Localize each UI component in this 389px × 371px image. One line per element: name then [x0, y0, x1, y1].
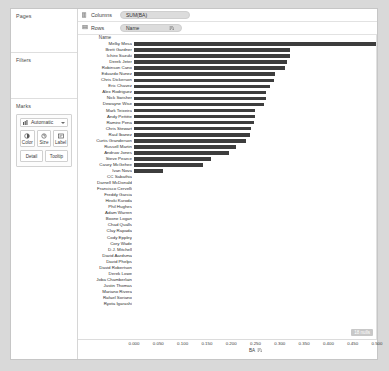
- rows-shelf[interactable]: Rows Name: [78, 22, 377, 35]
- x-axis-tick: 0.000: [129, 341, 140, 346]
- x-axis-title[interactable]: BA: [134, 348, 377, 353]
- bar-list: [134, 41, 376, 339]
- bar[interactable]: [134, 145, 236, 149]
- bar[interactable]: [134, 109, 255, 113]
- x-axis-tick: 0.150: [201, 341, 212, 346]
- rows-label: Rows: [91, 25, 117, 31]
- row-header-list: Melky MesaBrett GardnerIchiro SuzukiDere…: [96, 41, 132, 307]
- row-header-cell[interactable]: Joba Chamberlain: [96, 277, 132, 283]
- bar[interactable]: [134, 54, 290, 58]
- bar[interactable]: [134, 85, 270, 89]
- bar[interactable]: [134, 127, 251, 131]
- bar-chart-icon: [23, 120, 29, 126]
- bar[interactable]: [134, 91, 266, 95]
- bar[interactable]: [134, 72, 275, 76]
- row-header-cell[interactable]: David Robertson: [96, 265, 132, 271]
- color-icon: [24, 133, 30, 139]
- columns-icon: [82, 12, 88, 18]
- mark-type-label: Automatic: [31, 118, 59, 127]
- x-axis-tick: 0.100: [177, 341, 188, 346]
- bar[interactable]: [134, 133, 250, 137]
- bar[interactable]: [134, 139, 246, 143]
- marks-box: Automatic Color Size: [16, 114, 72, 167]
- bar[interactable]: [134, 79, 274, 83]
- tableau-worksheet: Pages Filters Marks Automatic: [10, 8, 378, 360]
- bar-row: [134, 301, 376, 307]
- x-axis-ticks: 0.0000.0500.1000.1500.2000.2500.3000.350…: [134, 340, 377, 348]
- bar[interactable]: [134, 157, 211, 161]
- rows-pill-name[interactable]: Name: [120, 24, 182, 32]
- bar[interactable]: [134, 151, 229, 155]
- sort-descending-icon[interactable]: [169, 26, 176, 31]
- columns-pill-sum-ba[interactable]: SUM(BA): [120, 11, 190, 19]
- bar[interactable]: [134, 163, 203, 167]
- bar[interactable]: [134, 48, 290, 52]
- label-button-label: Label: [55, 140, 66, 145]
- x-axis-tick: 0.300: [274, 341, 285, 346]
- color-button[interactable]: Color: [20, 130, 35, 147]
- sort-descending-icon[interactable]: [257, 348, 262, 353]
- mark-type-dropdown[interactable]: Automatic: [20, 118, 68, 127]
- tooltip-button-label: Tooltip: [50, 154, 63, 159]
- worksheet-main: Columns SUM(BA) Rows Name Name Melky Mes…: [78, 9, 377, 359]
- x-axis-tick: 0.400: [323, 341, 334, 346]
- rows-icon: [82, 25, 88, 31]
- size-button[interactable]: Size: [37, 130, 52, 147]
- bar[interactable]: [134, 121, 254, 125]
- x-axis-tick: 0.350: [299, 341, 310, 346]
- x-axis-tick: 0.250: [250, 341, 261, 346]
- pages-card: Pages: [11, 9, 77, 53]
- marks-button-row-1: Color Size Label: [20, 130, 68, 147]
- bar[interactable]: [134, 97, 266, 101]
- x-axis-tick: 0.450: [347, 341, 358, 346]
- filters-card[interactable]: Filters: [11, 53, 77, 99]
- rows-pill-text: Name: [126, 24, 139, 32]
- color-button-label: Color: [22, 140, 33, 145]
- row-headers: Name Melky MesaBrett GardnerIchiro Suzuk…: [78, 35, 134, 339]
- chevron-down-icon: [61, 122, 65, 124]
- bar[interactable]: [134, 169, 163, 173]
- marks-title: Marks: [16, 103, 72, 110]
- left-rail: Pages Filters Marks Automatic: [11, 9, 78, 359]
- row-header-cell[interactable]: Curtis Granderson: [96, 138, 132, 144]
- plot-area: Name Melky MesaBrett GardnerIchiro Suzuk…: [78, 35, 377, 339]
- bar[interactable]: [134, 66, 285, 70]
- x-axis-tick: 0.500: [372, 341, 383, 346]
- filters-title: Filters: [16, 57, 72, 64]
- size-button-label: Size: [40, 140, 49, 145]
- bar[interactable]: [134, 103, 264, 107]
- tooltip-button[interactable]: Tooltip: [45, 150, 68, 162]
- x-axis-tick: 0.200: [226, 341, 237, 346]
- detail-button[interactable]: Detail: [20, 150, 43, 162]
- x-axis-title-text: BA: [249, 348, 255, 353]
- marks-button-row-2: Detail Tooltip: [20, 150, 68, 162]
- nulls-badge[interactable]: 18 nulls: [351, 329, 373, 336]
- x-axis: 0.0000.0500.1000.1500.2000.2500.3000.350…: [78, 339, 377, 359]
- x-axis-tick: 0.050: [153, 341, 164, 346]
- columns-shelf[interactable]: Columns SUM(BA): [78, 9, 377, 22]
- bar[interactable]: [134, 60, 287, 64]
- marks-card: Marks Automatic Color: [11, 99, 77, 359]
- row-header-cell[interactable]: David Aardsma: [96, 253, 132, 259]
- bar[interactable]: [134, 42, 376, 46]
- label-icon: [58, 133, 64, 139]
- detail-button-label: Detail: [26, 154, 38, 159]
- row-header-cell[interactable]: Ryota Igarashi: [96, 301, 132, 307]
- bars-panel: 18 nulls: [134, 35, 377, 339]
- pages-title: Pages: [16, 13, 72, 20]
- size-icon: [41, 133, 47, 139]
- bar[interactable]: [134, 115, 255, 119]
- label-button[interactable]: Label: [53, 130, 68, 147]
- viz-view: Name Melky MesaBrett GardnerIchiro Suzuk…: [78, 35, 377, 359]
- columns-label: Columns: [91, 12, 117, 18]
